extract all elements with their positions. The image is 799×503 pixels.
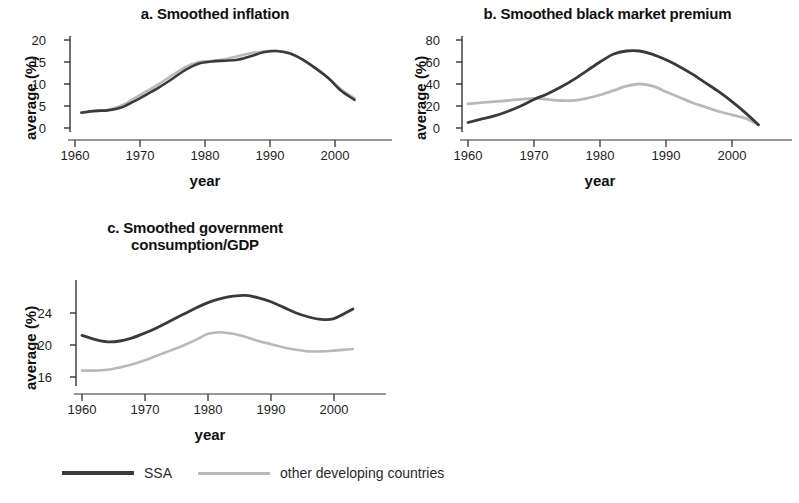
- panel-c-xtick-2000: 2000: [304, 402, 364, 417]
- chart-legend: SSA other developing countries: [0, 455, 799, 503]
- panel-c-x-axis-label: year: [155, 426, 265, 443]
- panel-b-xtick-2000: 2000: [702, 148, 762, 163]
- legend-label-ssa: SSA: [144, 465, 172, 481]
- panel-b-xtick-1980: 1980: [570, 148, 630, 163]
- panel-a-xtick-1980: 1980: [175, 148, 235, 163]
- panel-b-line-ssa: [468, 51, 758, 125]
- panel-b-xtick-1970: 1970: [504, 148, 564, 163]
- panel-c-xtick-1960: 1960: [52, 402, 112, 417]
- panel-a-series-group: [82, 51, 355, 113]
- legend-entry-ssa: SSA: [62, 465, 172, 481]
- panel-b-x-axis-label: year: [545, 172, 655, 189]
- panel-b-series-group: [468, 51, 758, 125]
- panel-c-xtick-1970: 1970: [115, 402, 175, 417]
- panel-c-line-other-developing-countries: [82, 332, 353, 370]
- panel-b-xtick-1960: 1960: [438, 148, 498, 163]
- legend-line-swatch-ssa: [62, 471, 134, 475]
- panel-a-xtick-1990: 1990: [240, 148, 300, 163]
- panel-a-xtick-2000: 2000: [305, 148, 365, 163]
- figure-panel-group: a. Smoothed inflation average (%) 20 15 …: [0, 0, 799, 503]
- panel-c-series-group: [82, 295, 353, 370]
- panel-a-plot-area: [0, 0, 400, 200]
- panel-c-xtick-1990: 1990: [241, 402, 301, 417]
- legend-entry-other-developing-countries: other developing countries: [198, 465, 444, 481]
- panel-c-smoothed-government-consumption-gdp: c. Smoothed government consumption/GDP a…: [0, 218, 400, 448]
- panel-a-smoothed-inflation: a. Smoothed inflation average (%) 20 15 …: [0, 0, 400, 200]
- panel-b-xtick-1990: 1990: [636, 148, 696, 163]
- panel-a-xtick-1970: 1970: [110, 148, 170, 163]
- panel-a-xtick-1960: 1960: [45, 148, 105, 163]
- panel-c-xtick-1980: 1980: [178, 402, 238, 417]
- panel-b-plot-area: [400, 0, 799, 200]
- legend-line-swatch-other-developing-countries: [198, 472, 270, 475]
- panel-b-smoothed-black-market-premium: b. Smoothed black market premium average…: [400, 0, 799, 200]
- panel-c-line-ssa: [82, 295, 353, 342]
- panel-a-x-axis-label: year: [150, 172, 260, 189]
- legend-label-other-developing-countries: other developing countries: [280, 465, 444, 481]
- panel-a-line-ssa: [82, 51, 355, 113]
